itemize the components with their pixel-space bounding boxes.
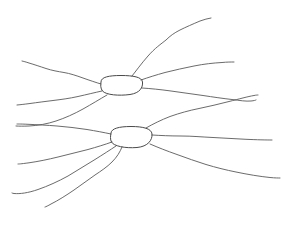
sketch-svg bbox=[0, 0, 295, 227]
canvas-background bbox=[0, 0, 295, 227]
sketch-canvas bbox=[0, 0, 295, 227]
